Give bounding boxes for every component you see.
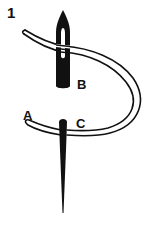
needle-eye-end <box>56 10 70 88</box>
label-b: B <box>77 78 86 91</box>
label-a: A <box>23 109 32 122</box>
needle-point-end <box>59 119 67 213</box>
step-number: 1 <box>7 5 15 20</box>
stitch-diagram: 1 A B C <box>0 0 156 236</box>
label-c: C <box>76 117 85 130</box>
